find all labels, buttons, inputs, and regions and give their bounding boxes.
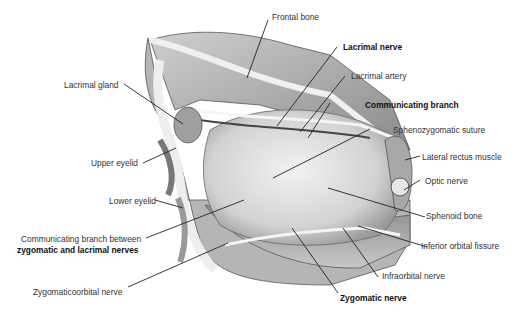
label-zygomatic-nerve: Zygomatic nerve [340,293,407,303]
anatomy-figure: Frontal bone Lacrimal nerve Lacrimal art… [0,0,519,323]
label-lacrimal-artery: Lacrimal artery [351,71,406,81]
label-lacrimal-gland: Lacrimal gland [64,80,118,90]
label-sphenoid-bone: Sphenoid bone [426,211,482,221]
label-lacrimal-nerve: Lacrimal nerve [343,42,402,52]
label-comm-branch-between: Communicating branch between [21,234,141,244]
label-upper-eyelid: Upper eyelid [91,158,138,168]
label-frontal-bone: Frontal bone [272,12,319,22]
label-zygomaticoorbital-nerve: Zygomaticoorbital nerve [33,287,122,297]
label-lateral-rectus-muscle: Lateral rectus muscle [422,152,502,162]
label-inferior-orbital-fissure: Inferior orbital fissure [421,241,499,251]
label-infraorbital-nerve: Infraorbital nerve [382,271,445,281]
label-zygomatic-lacrimal-nerves: zygomatic and lacrimal nerves [17,245,139,255]
label-lower-eyelid: Lower eyelid [109,196,156,206]
label-communicating-branch: Communicating branch [365,100,459,110]
label-optic-nerve: Optic nerve [425,176,468,186]
label-sphenozygomatic-suture: Sphenozygomatic suture [393,125,485,135]
